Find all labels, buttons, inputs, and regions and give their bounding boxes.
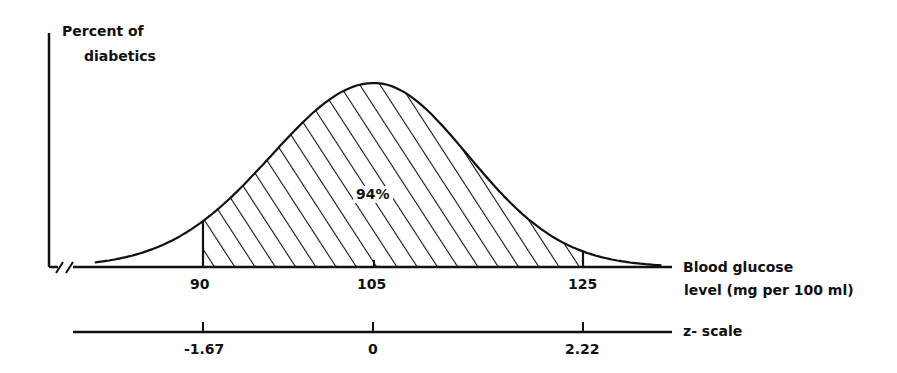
x-axis-label-line1: Blood glucose [683, 259, 793, 276]
tick-label-90: 90 [190, 276, 209, 293]
y-axis-label-line2: diabetics [84, 48, 156, 65]
z-tick-label-pos: 2.22 [565, 341, 600, 358]
area-percent-label: 94% [353, 186, 393, 203]
shaded-area-94 [203, 83, 583, 267]
y-axis-label-line1: Percent of [62, 23, 144, 40]
z-tick-label-zero: 0 [368, 341, 378, 358]
z-scale-label: z- scale [683, 323, 742, 340]
z-tick-label-neg: -1.67 [184, 341, 224, 358]
x-axis-label-line2: level (mg per 100 ml) [684, 282, 854, 299]
tick-label-125: 125 [568, 276, 597, 293]
tick-label-105: 105 [357, 276, 386, 293]
